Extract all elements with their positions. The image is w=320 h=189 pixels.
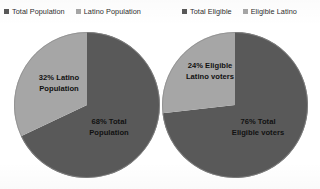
eligible-voters-pie: 24% Eligible Latino voters 76% Total Eli…: [162, 32, 308, 178]
slice-label-line1: 32% Latino: [39, 73, 79, 82]
slice-label-line2: Population: [89, 128, 129, 137]
slice-label-line2: Latino voters: [186, 72, 234, 81]
legend-label: Latino Population: [84, 7, 141, 16]
legend-item-eligible-latino: Eligible Latino: [243, 7, 297, 16]
slice-label-line1: 68% Total: [91, 117, 126, 126]
left-chart-legend: Total Population Latino Population: [4, 7, 141, 16]
total-population-pie-svg: [14, 32, 160, 178]
right-chart-legend: Total Eligible Eligible Latino: [182, 7, 297, 16]
slice-label-line1: 76% Total: [240, 117, 275, 126]
slice-label-total-eligible: 76% Total Eligible voters: [210, 117, 306, 138]
slice-label-eligible-latino: 24% Eligible Latino voters: [164, 61, 256, 82]
legend-label: Eligible Latino: [251, 7, 297, 16]
legend-swatch-icon: [4, 9, 9, 14]
legend-item-latino-population: Latino Population: [76, 7, 141, 16]
pie-chart-figure: Total Population Latino Population Total…: [0, 0, 320, 189]
total-population-pie: 32% Latino Population 68% Total Populati…: [14, 32, 160, 178]
legend-swatch-icon: [243, 9, 248, 14]
legend-label: Total Eligible: [190, 7, 232, 16]
eligible-voters-pie-svg: [162, 32, 308, 178]
slice-label-latino-population: 32% Latino Population: [18, 73, 100, 94]
slice-label-line2: Population: [39, 84, 79, 93]
legend-item-total-population: Total Population: [4, 7, 65, 16]
legend-swatch-icon: [182, 9, 187, 14]
legend-label: Total Population: [12, 7, 65, 16]
legend-item-total-eligible: Total Eligible: [182, 7, 232, 16]
slice-label-line1: 24% Eligible: [188, 61, 233, 70]
legend-swatch-icon: [76, 9, 81, 14]
slice-label-total-population: 68% Total Population: [66, 117, 152, 138]
slice-label-line2: Eligible voters: [232, 128, 284, 137]
